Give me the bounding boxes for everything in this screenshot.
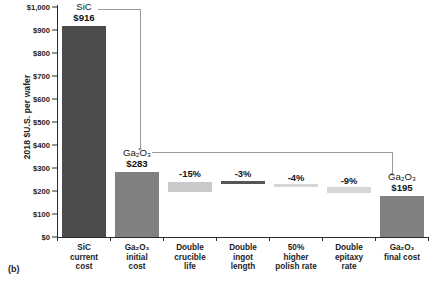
y-tick-label-100: $100 xyxy=(33,210,50,219)
y-tick-label-500: $500 xyxy=(33,118,50,127)
bar-amount-label-ga2o3-final: $195 xyxy=(372,183,432,194)
bar-sic-current-cost xyxy=(62,26,106,237)
x-axis-label-line: Ga₂O₃ xyxy=(372,243,432,253)
delta-label-50-higher-polish-rate: -4% xyxy=(266,172,326,183)
y-tick-label-200: $200 xyxy=(33,187,50,196)
x-axis-label-line: cost xyxy=(107,262,167,272)
bar-amount-label-sic: $916 xyxy=(54,13,114,24)
bar-series-label-ga2o3-final: Ga₂O₃ xyxy=(372,172,432,183)
x-tick-mark-1 xyxy=(110,237,111,241)
y-tick-label-1000: $1,000 xyxy=(27,3,50,12)
y-axis-line xyxy=(57,5,58,239)
x-axis-label-line: epitaxy xyxy=(319,253,379,263)
x-tick-mark-6 xyxy=(375,237,376,241)
delta-label-double-epitaxy-rate: -9% xyxy=(319,175,379,186)
x-axis-label-line: ingot xyxy=(213,253,273,263)
waterfall-chart-figure: 2018 $U.S. per wafer $0 $100 $200 $300 $… xyxy=(0,0,433,288)
bar-amount-label-ga2o3-initial: $283 xyxy=(107,159,167,170)
x-tick-mark-7 xyxy=(428,237,429,241)
x-axis-label-line: SiC xyxy=(54,243,114,253)
x-tick-mark-3 xyxy=(216,237,217,241)
x-axis-label-line: Double xyxy=(213,243,273,253)
x-axis-label-line: Double xyxy=(160,243,220,253)
x-tick-mark-0 xyxy=(57,237,58,241)
bar-value-label-ga2o3-initial: Ga₂O₃ $283 xyxy=(107,148,167,169)
delta-label-double-ingot-length: -3% xyxy=(213,168,273,179)
bar-series-label-ga2o3-initial: Ga₂O₃ xyxy=(107,148,167,159)
bar-ga2o3-final-cost xyxy=(380,196,424,237)
bar-delta-50-higher-polish-rate xyxy=(274,184,318,187)
x-tick-mark-4 xyxy=(269,237,270,241)
y-tick-label-300: $300 xyxy=(33,164,50,173)
bar-value-label-sic: SiC $916 xyxy=(54,2,114,23)
x-axis-label-double-ingot-length: Double ingot length xyxy=(213,243,273,272)
x-axis-label-line: crucible xyxy=(160,253,220,263)
bar-ga2o3-initial-cost xyxy=(115,172,159,237)
bar-value-label-ga2o3-final: Ga₂O₃ $195 xyxy=(372,172,432,193)
x-axis-label-double-epitaxy-rate: Double epitaxy rate xyxy=(319,243,379,272)
x-axis-label-line: cost xyxy=(54,262,114,272)
x-axis-label-line: life xyxy=(160,262,220,272)
x-axis-label-line: current xyxy=(54,253,114,263)
bar-series-label-sic: SiC xyxy=(54,2,114,13)
y-axis-ticks: $0 $100 $200 $300 $400 $500 $600 $700 $8… xyxy=(0,0,58,288)
x-axis-label-line: length xyxy=(213,262,273,272)
x-axis-label-line: initial xyxy=(107,253,167,263)
y-tick-label-800: $800 xyxy=(33,49,50,58)
connector-ga-initial-to-final-horizontal xyxy=(152,152,393,153)
x-axis-label-50-higher-polish-rate: 50% higher polish rate xyxy=(266,243,326,272)
x-axis-label-sic-current-cost: SiC current cost xyxy=(54,243,114,272)
y-tick-label-400: $400 xyxy=(33,141,50,150)
y-tick-label-900: $900 xyxy=(33,26,50,35)
x-axis-label-line: rate xyxy=(319,262,379,272)
y-tick-label-600: $600 xyxy=(33,95,50,104)
x-axis-label-line: Double xyxy=(319,243,379,253)
connector-sic-to-ga-initial-vertical xyxy=(140,9,141,149)
x-axis-label-ga2o3-initial-cost: Ga₂O₃ initial cost xyxy=(107,243,167,272)
x-axis-label-line: 50% xyxy=(266,243,326,253)
figure-caption: (b) xyxy=(8,264,20,274)
x-axis-label-double-crucible-life: Double crucible life xyxy=(160,243,220,272)
x-axis-label-ga2o3-final-cost: Ga₂O₃ final cost xyxy=(372,243,432,262)
x-axis-label-line: Ga₂O₃ xyxy=(107,243,167,253)
x-axis-line xyxy=(57,237,429,238)
bar-delta-double-crucible-life xyxy=(168,182,212,192)
x-axis-label-line: final cost xyxy=(372,253,432,263)
y-tick-label-0: $0 xyxy=(42,233,50,242)
delta-label-double-crucible-life: -15% xyxy=(160,168,220,179)
y-tick-label-700: $700 xyxy=(33,72,50,81)
bar-delta-double-ingot-length xyxy=(221,181,265,184)
x-tick-mark-5 xyxy=(322,237,323,241)
x-tick-mark-2 xyxy=(163,237,164,241)
x-axis-label-line: polish rate xyxy=(266,262,326,272)
x-axis-label-line: higher xyxy=(266,253,326,263)
bar-delta-double-epitaxy-rate xyxy=(327,187,371,193)
